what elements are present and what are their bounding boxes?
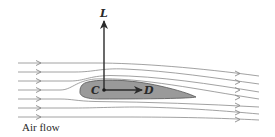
flow-arrows-right	[235, 71, 240, 122]
flow-arrow-icon	[235, 80, 240, 85]
flow-arrow-icon	[235, 117, 240, 122]
center-label: C	[91, 84, 100, 97]
drag-label: D	[143, 84, 154, 97]
streamline	[18, 99, 259, 107]
center-point	[102, 88, 106, 92]
streamline	[18, 107, 259, 114]
streamline	[18, 117, 259, 120]
lift-label: L	[99, 7, 108, 20]
airfoil-diagram: L C D Air flow	[0, 0, 275, 137]
flow-arrow-icon	[235, 88, 240, 93]
air-flow-caption: Air flow	[22, 121, 60, 133]
